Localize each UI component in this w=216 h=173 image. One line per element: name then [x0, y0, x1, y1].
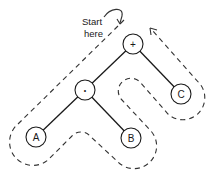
node-b-label: B — [128, 133, 135, 144]
start-label-line2: here — [84, 28, 103, 39]
node-c: C — [171, 84, 191, 104]
node-a: A — [26, 127, 46, 147]
node-c-label: C — [177, 89, 184, 100]
node-plus-label: + — [130, 39, 136, 50]
node-a-label: A — [33, 132, 40, 143]
node-plus: + — [123, 34, 143, 54]
node-times: • — [75, 80, 95, 100]
start-label-line1: Start — [82, 16, 102, 27]
start-curl-arrow-icon — [104, 9, 122, 23]
expression-tree-diagram: Start here + • A B C — [0, 0, 216, 173]
node-b: B — [121, 128, 141, 148]
